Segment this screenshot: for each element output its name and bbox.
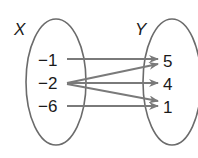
domain-element: −2 (38, 75, 57, 92)
mapping-diagram: X Y −1 −2 −6 5 4 1 (0, 0, 198, 158)
range-element: 5 (163, 53, 172, 70)
range-element: 4 (163, 76, 172, 93)
domain-element: −1 (38, 52, 57, 69)
arrow-neg2-to-1 (67, 84, 158, 101)
range-set-label: Y (135, 21, 146, 38)
domain-set-label: X (14, 21, 25, 38)
arrow-neg2-to-5 (67, 64, 158, 83)
domain-element: −6 (38, 98, 57, 115)
range-element: 1 (163, 99, 172, 116)
